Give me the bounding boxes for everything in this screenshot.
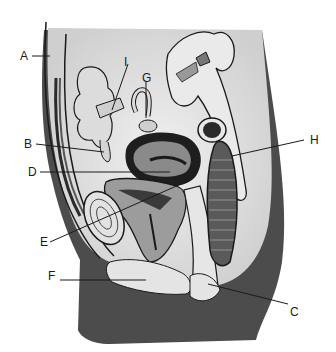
label-H: H <box>310 134 319 146</box>
label-B: B <box>24 138 32 150</box>
ovary <box>139 120 157 132</box>
label-E: E <box>40 236 48 248</box>
label-G: G <box>142 72 151 84</box>
label-D: D <box>28 166 37 178</box>
label-F: F <box>48 270 55 282</box>
label-A: A <box>20 50 28 62</box>
label-C: C <box>290 306 299 318</box>
label-I: I <box>124 56 127 68</box>
pelvis-diagram <box>0 0 336 352</box>
